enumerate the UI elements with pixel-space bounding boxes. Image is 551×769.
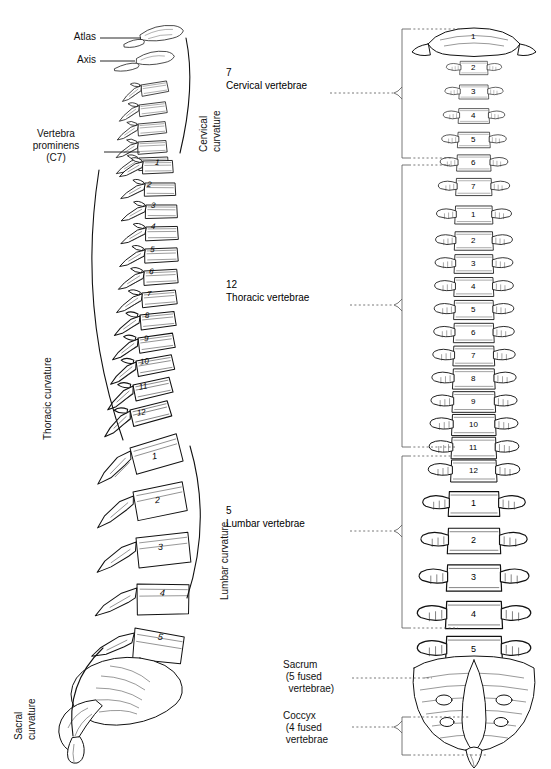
lateral-thoracic-number: 12 <box>136 408 146 418</box>
posterior-thoracic-number: 3 <box>471 260 475 268</box>
group-label-cervical: 7 Cervical vertebrae <box>226 66 326 92</box>
lateral-thoracic-number: 10 <box>140 357 150 366</box>
lateral-thoracic-number: 11 <box>138 382 147 391</box>
posterior-thoracic-number: 2 <box>471 237 475 245</box>
lateral-lumbar-number: 3 <box>158 543 163 551</box>
bracket-cervical <box>402 29 409 158</box>
posterior-thoracic-number: 5 <box>471 306 475 314</box>
posterior-coccyx <box>466 747 482 768</box>
posterior-thoracic-number: 9 <box>471 398 475 406</box>
posterior-lumbar-number: 2 <box>471 536 476 544</box>
posterior-cervical-number: 2 <box>471 64 475 72</box>
group-name-cervical: Cervical vertebrae <box>226 79 326 92</box>
group-label-sacrum: Sacrum (5 fused vertebrae) <box>283 659 353 695</box>
posterior-lumbar-number: 1 <box>471 499 476 507</box>
label-cervical-curvature-line1: Cervical <box>198 116 210 152</box>
posterior-thoracic-number: 4 <box>471 283 475 291</box>
vertebral-column-artwork: .s{fill:#fff;stroke:#111;stroke-width:1;… <box>0 0 551 769</box>
label-thoracic-curvature: Thoracic curvature <box>42 357 54 440</box>
posterior-thoracic-number: 11 <box>469 444 477 452</box>
callout-atlas: Atlas <box>30 31 96 43</box>
posterior-cervical-number: 4 <box>471 112 475 120</box>
lateral-thoracic-number: 3 <box>151 202 156 210</box>
group-label-thoracic: 12 Thoracic vertebrae <box>226 278 350 304</box>
lateral-thoracic-number: 5 <box>150 246 155 254</box>
posterior-sacrum <box>413 656 535 752</box>
figure-canvas: .s{fill:#fff;stroke:#111;stroke-width:1;… <box>0 0 551 769</box>
lateral-thoracic-number: 9 <box>144 335 149 343</box>
posterior-thoracic-number: 10 <box>469 421 478 429</box>
group-label-coccyx: Coccyx (4 fused vertebrae <box>283 710 353 746</box>
posterior-cervical-number: 3 <box>471 88 475 96</box>
bracket-thoracic <box>402 165 409 447</box>
callout-vertebra-prominens: Vertebra prominens (C7) <box>12 128 100 164</box>
posterior-cervical-number: 6 <box>471 159 475 167</box>
posterior-lumbar-number: 4 <box>471 610 476 618</box>
group-count-cervical: 7 <box>226 66 326 79</box>
posterior-thoracic-number: 12 <box>469 467 478 475</box>
posterior-lumbar-number: 3 <box>471 573 476 581</box>
group-name-thoracic: Thoracic vertebrae <box>226 291 350 304</box>
posterior-cervical-number: 7 <box>471 183 475 191</box>
lateral-thoracic-number: 1 <box>155 159 160 167</box>
group-label-lumbar: 5 Lumbar vertebrae <box>226 504 350 530</box>
posterior-thoracic-number: 7 <box>471 352 475 360</box>
group-count-lumbar: 5 <box>226 504 350 517</box>
lateral-lumbar-number: 4 <box>160 589 165 597</box>
posterior-thoracic-number: 6 <box>471 329 475 337</box>
posterior-thoracic-number: 8 <box>471 375 475 383</box>
lumbar-curvature-arc <box>187 446 200 598</box>
label-lumbar-curvature: Lumbar curvature <box>219 522 231 600</box>
lateral-thoracic-number: 2 <box>147 181 152 189</box>
lateral-thoracic-number: 6 <box>149 268 154 276</box>
posterior-cervical-number: 5 <box>471 136 475 144</box>
lateral-thoracic-number: 4 <box>151 223 156 231</box>
label-sacral-curvature-line2: curvature <box>26 698 38 740</box>
group-name-lumbar: Lumbar vertebrae <box>226 517 350 530</box>
posterior-thoracic-number: 1 <box>471 211 475 219</box>
posterior-lumbar-number: 5 <box>471 645 476 653</box>
bracket-coccyx <box>402 717 409 755</box>
callout-axis: Axis <box>30 54 96 66</box>
lateral-sacrum <box>59 657 182 763</box>
label-sacral-curvature-line1: Sacral <box>13 712 25 740</box>
group-count-thoracic: 12 <box>226 278 350 291</box>
cervical-curvature-arc <box>180 38 190 153</box>
lateral-lumbar-number: 2 <box>155 496 161 504</box>
bracket-lumbar <box>402 456 409 628</box>
lateral-thoracic-number: 7 <box>147 290 151 298</box>
lateral-thoracic-number: 8 <box>145 312 150 320</box>
posterior-cervical-number: 1 <box>471 33 475 41</box>
label-cervical-curvature-line2: curvature <box>211 110 223 152</box>
